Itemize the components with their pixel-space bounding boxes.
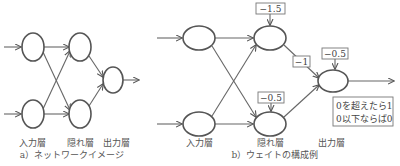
hidden-node-top xyxy=(254,26,286,50)
hidden-node-top xyxy=(69,33,91,61)
input-node-bottom xyxy=(183,112,215,136)
label-input-layer: 入力層 xyxy=(186,137,213,148)
activation-rule-box: 0を超えたら1 0以下ならば0 xyxy=(333,97,393,126)
bias-box-output: −0.5 xyxy=(322,48,348,59)
weight-box-hidden-top-output: −1 xyxy=(293,56,310,67)
input-node-top xyxy=(22,33,44,61)
input-node-bottom xyxy=(22,100,44,128)
edge-h2-o xyxy=(284,85,319,117)
label-input-layer: 入力層 xyxy=(19,137,46,148)
output-node xyxy=(103,67,123,93)
label-output-layer: 出力層 xyxy=(318,137,345,148)
bias-box-hidden-top: −1.5 xyxy=(256,3,285,14)
activation-rule-line2: 0以下ならば0 xyxy=(336,114,393,124)
edge-h1-o xyxy=(89,56,103,77)
label-output-layer: 出力層 xyxy=(103,137,130,148)
hidden-node-bottom xyxy=(254,112,286,136)
bias-value: −0.5 xyxy=(260,93,282,103)
bias-value: −1.5 xyxy=(260,4,282,14)
output-node xyxy=(318,70,348,92)
label-hidden-layer: 隠れ層 xyxy=(257,137,284,148)
bias-value: −0.5 xyxy=(324,49,346,59)
activation-rule-line1: 0を超えたら1 xyxy=(336,100,392,111)
label-hidden-layer: 隠れ層 xyxy=(67,137,94,148)
caption-b: b）ウェイトの構成例 xyxy=(232,149,319,160)
weight-example-diagram: −1.5 −0.5 −1 −0.5 0を超えたら1 0以下ならば0 入力層 隠れ… xyxy=(157,3,394,160)
bias-box-hidden-bottom: −0.5 xyxy=(258,92,284,103)
hidden-node-bottom xyxy=(69,100,91,128)
input-node-top xyxy=(183,26,215,50)
weight-value: −1 xyxy=(295,57,308,67)
edge-h2-o xyxy=(89,84,103,106)
caption-a: a）ネットワークイメージ xyxy=(20,150,124,160)
network-image-diagram: 入力層 隠れ層 出力層 a）ネットワークイメージ xyxy=(4,33,139,160)
neural-network-figure: 入力層 隠れ層 出力層 a）ネットワークイメージ −1.5 xyxy=(0,0,400,166)
